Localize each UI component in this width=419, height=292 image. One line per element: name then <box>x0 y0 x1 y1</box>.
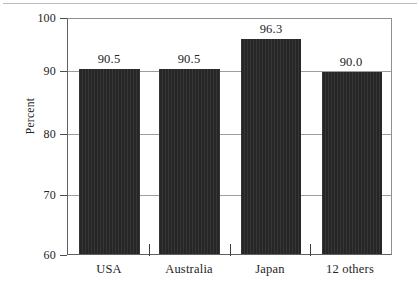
value-label-usa: 90.5 <box>74 53 144 66</box>
bar-chart-figure: Percent 100 90 80 70 60 90.5 90.5 96.3 9… <box>0 0 419 292</box>
x-axis-label-usa: USA <box>64 262 154 276</box>
y-axis-tick-label-100: 100 <box>16 12 56 24</box>
value-label-japan: 96.3 <box>236 23 306 36</box>
bar-12-others[interactable] <box>322 72 382 254</box>
bar-japan[interactable] <box>241 39 301 254</box>
bar-australia[interactable] <box>159 69 220 254</box>
y-axis-tick-mark-90 <box>60 71 67 72</box>
x-axis-tick-mark-3 <box>310 244 311 256</box>
bar-usa[interactable] <box>79 69 140 254</box>
y-axis-tick-label-60: 60 <box>16 249 56 261</box>
x-axis-label-australia: Australia <box>144 262 234 276</box>
y-axis-tick-mark-100 <box>60 18 67 19</box>
y-axis-title: Percent <box>24 81 36 151</box>
x-axis-label-12-others: 12 others <box>305 262 395 276</box>
y-axis-tick-mark-80 <box>60 134 67 135</box>
x-axis-tick-mark-1 <box>149 244 150 256</box>
y-axis-tick-mark-60 <box>60 255 67 256</box>
page-top-rule <box>3 3 417 4</box>
value-label-12-others: 90.0 <box>316 56 386 69</box>
x-axis-label-japan: Japan <box>225 262 315 276</box>
y-axis-tick-label-90: 90 <box>16 65 56 77</box>
y-axis-tick-mark-70 <box>60 195 67 196</box>
x-axis-tick-mark-2 <box>230 244 231 256</box>
y-axis-tick-label-80: 80 <box>16 128 56 140</box>
value-label-australia: 90.5 <box>154 53 224 66</box>
y-axis-tick-label-70: 70 <box>16 189 56 201</box>
